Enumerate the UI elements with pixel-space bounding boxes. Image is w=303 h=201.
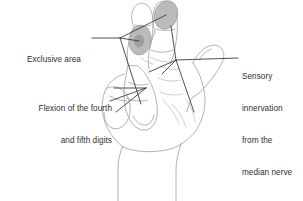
palm-right-outline [181,63,205,144]
palm-fold-1 [163,100,179,124]
knuckle-crease-middle [158,78,181,81]
leader-sensory [149,26,238,112]
hand-outline-group [102,1,224,201]
ring-finger-nail [133,115,154,125]
palm-fold-2 [150,57,168,62]
leader-sensory-stem [176,58,238,60]
label-sensory-line-3: from the [242,136,303,147]
palm-fold-4 [141,58,153,64]
label-sensory-line-4: median nerve [242,168,303,179]
forearm-left-edge [118,146,123,201]
index-fingertip-exclusive-area [151,0,182,32]
label-exclusive-area: Exclusive area [27,34,81,87]
label-sensory-line-1: Sensory [242,72,303,83]
median-nerve-hand-figure: Exclusive area Flexion of the fourth and… [0,0,303,201]
ring-finger-crease-1 [128,82,148,85]
wrist-crease [123,144,181,152]
forearm-right-edge [176,144,181,201]
leader-flexion [110,88,146,112]
leader-sensory-branch-middle [162,60,176,74]
label-flexion-line-2: and fifth digits [6,136,112,147]
label-sensory-line-2: innervation [242,104,303,115]
label-flexion-fourth-fifth-digits: Flexion of the fourth and fifth digits [6,83,112,168]
leader-sensory-branch-palm [176,60,194,112]
index-pip-crease [151,50,173,52]
label-flexion-line-1: Flexion of the fourth [6,104,112,115]
label-exclusive-area-line-1: Exclusive area [27,55,81,66]
knuckle-crease-ring [160,92,183,95]
thumb-inner-crease [199,49,211,60]
label-sensory-innervation: Sensory innervation from the median nerv… [242,51,303,199]
